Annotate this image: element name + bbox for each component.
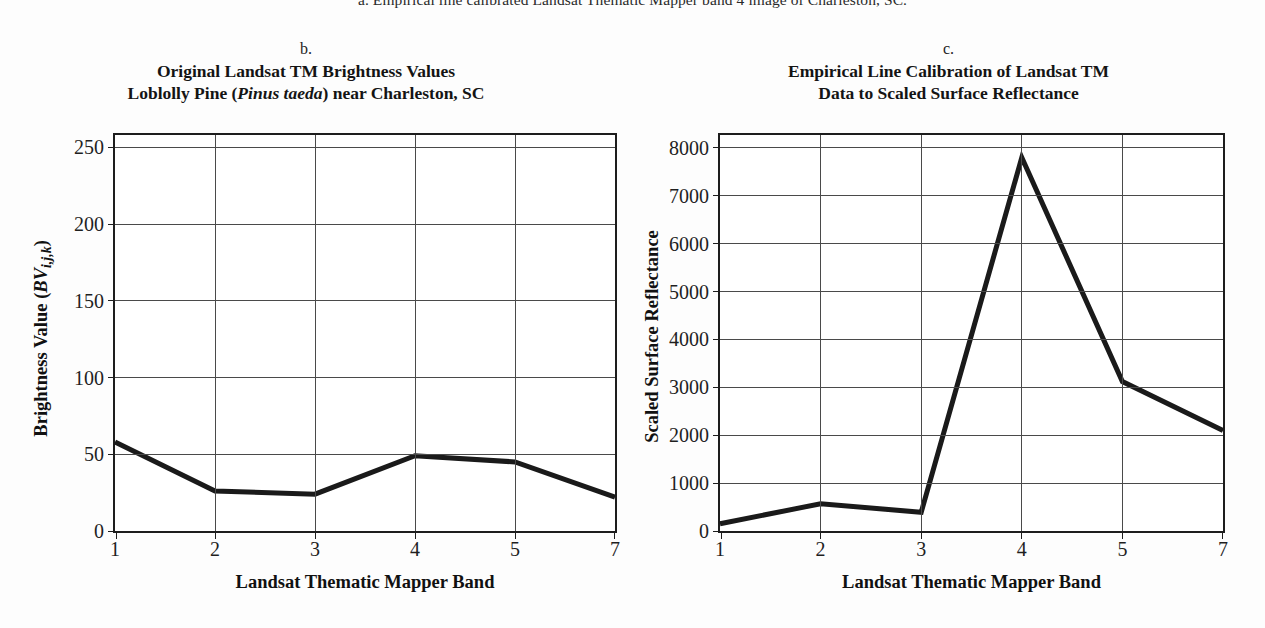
y-axis-tick-mark — [108, 300, 115, 301]
x-axis-tick-label: 3 — [310, 538, 320, 561]
y-title-pre: Brightness Value ( — [31, 293, 51, 437]
panel-b-title-species: Pinus taeda — [237, 83, 322, 103]
y-axis-tick-label: 250 — [74, 136, 104, 159]
y-axis-tick-label: 8000 — [669, 136, 709, 159]
panel-c-title: Empirical Line Calibration of Landsat TM… — [632, 60, 1265, 104]
panel-b-title: Original Landsat TM Brightness Values Lo… — [0, 60, 622, 104]
gridline-vertical — [921, 135, 922, 531]
x-axis-tick-label: 1 — [110, 538, 120, 561]
y-axis-tick-label: 5000 — [669, 280, 709, 303]
gridline-vertical — [215, 135, 216, 531]
y-axis-tick-label: 0 — [94, 520, 104, 543]
y-axis-tick-label: 4000 — [669, 328, 709, 351]
x-axis-tick-label: 7 — [1218, 538, 1228, 561]
y-axis-tick-mark — [713, 531, 720, 532]
y-axis-tick-mark — [108, 531, 115, 532]
gridline-horizontal — [115, 224, 615, 225]
x-axis-tick-label: 5 — [510, 538, 520, 561]
panel-c-title-line2: Data to Scaled Surface Reflectance — [632, 82, 1265, 104]
x-axis-tick-label: 4 — [410, 538, 420, 561]
gridline-vertical — [820, 135, 821, 531]
panel-c-letter: c. — [632, 40, 1265, 58]
panel-b-series-line — [115, 135, 615, 531]
panel-b-letter: b. — [0, 40, 622, 58]
y-axis-tick-label: 200 — [74, 213, 104, 236]
y-axis-tick-mark — [713, 195, 720, 196]
data-series-polyline — [115, 442, 615, 497]
gridline-horizontal — [720, 483, 1223, 484]
y-axis-tick-label: 2000 — [669, 424, 709, 447]
gridline-horizontal — [115, 147, 615, 148]
y-axis-tick-mark — [108, 147, 115, 148]
x-axis-tick-label: 5 — [1117, 538, 1127, 561]
gridline-horizontal — [720, 339, 1223, 340]
y-axis-tick-mark — [108, 224, 115, 225]
gridline-horizontal — [720, 243, 1223, 244]
panel-b-title-pre: Loblolly Pine ( — [127, 83, 237, 103]
y-axis-tick-label: 100 — [74, 366, 104, 389]
y-axis-tick-mark — [108, 454, 115, 455]
x-axis-tick-label: 1 — [715, 538, 725, 561]
gridline-horizontal — [115, 454, 615, 455]
y-axis-tick-mark — [713, 291, 720, 292]
y-title-subscript: i,j,k — [39, 246, 54, 268]
panel-c-x-axis-title: Landsat Thematic Mapper Band — [718, 572, 1225, 593]
y-axis-tick-mark — [713, 435, 720, 436]
chart-panel-b-plot-area: 050100150200250123457 — [113, 133, 617, 533]
y-axis-tick-mark — [713, 339, 720, 340]
y-title-symbol: BV — [31, 268, 51, 293]
x-axis-tick-label: 3 — [916, 538, 926, 561]
gridline-horizontal — [115, 377, 615, 378]
x-axis-tick-label: 2 — [210, 538, 220, 561]
gridline-horizontal — [720, 195, 1223, 196]
panel-b-x-axis-title: Landsat Thematic Mapper Band — [113, 572, 617, 593]
panel-b-title-line2: Loblolly Pine (Pinus taeda) near Charles… — [0, 82, 622, 104]
x-axis-tick-label: 7 — [610, 538, 620, 561]
panel-b-y-axis-title: Brightness Value (BVi,j,k) — [31, 173, 56, 503]
gridline-vertical — [515, 135, 516, 531]
panel-c-title-line1: Empirical Line Calibration of Landsat TM — [632, 60, 1265, 82]
y-axis-tick-label: 1000 — [669, 472, 709, 495]
panel-c-y-axis-title: Scaled Surface Reflectance — [642, 172, 663, 502]
y-axis-tick-mark — [713, 147, 720, 148]
y-axis-tick-label: 6000 — [669, 232, 709, 255]
gridline-horizontal — [720, 291, 1223, 292]
gridline-horizontal — [720, 435, 1223, 436]
panel-b-title-line1: Original Landsat TM Brightness Values — [0, 60, 622, 82]
gridline-horizontal — [720, 387, 1223, 388]
gridline-vertical — [315, 135, 316, 531]
chart-panel-c-plot-area: 010002000300040005000600070008000123457 — [718, 133, 1225, 533]
y-axis-tick-label: 150 — [74, 289, 104, 312]
data-series-polyline — [720, 158, 1223, 524]
figure-caption-a: a. Empirical line calibrated Landsat The… — [0, 0, 1265, 9]
y-axis-tick-label: 3000 — [669, 376, 709, 399]
y-axis-tick-mark — [108, 377, 115, 378]
y-axis-tick-mark — [713, 243, 720, 244]
y-title-post: ) — [31, 240, 51, 246]
x-axis-tick-label: 4 — [1017, 538, 1027, 561]
gridline-vertical — [415, 135, 416, 531]
y-axis-tick-label: 50 — [84, 443, 104, 466]
y-axis-tick-label: 7000 — [669, 184, 709, 207]
panel-b-title-post: ) near Charleston, SC — [322, 83, 484, 103]
gridline-vertical — [1122, 135, 1123, 531]
gridline-vertical — [1021, 135, 1022, 531]
y-axis-tick-mark — [713, 387, 720, 388]
gridline-horizontal — [115, 300, 615, 301]
gridline-horizontal — [720, 147, 1223, 148]
x-axis-tick-label: 2 — [816, 538, 826, 561]
y-axis-tick-label: 0 — [699, 520, 709, 543]
y-axis-tick-mark — [713, 483, 720, 484]
